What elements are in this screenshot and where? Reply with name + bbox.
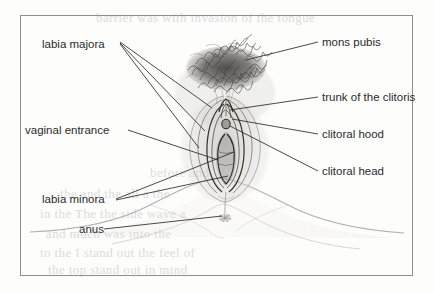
label-clitoral-hood: clitoral hood <box>322 128 384 140</box>
label-trunk-of-the-clitoris: trunk of the clitoris <box>322 91 415 103</box>
label-clitoral-head: clitoral head <box>322 165 384 177</box>
label-mons-pubis: mons pubis <box>322 36 381 48</box>
figure-page: barrier was with invasion of the tongueb… <box>0 0 434 293</box>
label-anus: anus <box>79 223 104 235</box>
label-labia-minora: labia minora <box>42 193 105 205</box>
label-labia-majora: labia majora <box>42 38 105 50</box>
label-vaginal-entrance: vaginal entrance <box>25 124 109 136</box>
figure-border <box>20 15 413 276</box>
